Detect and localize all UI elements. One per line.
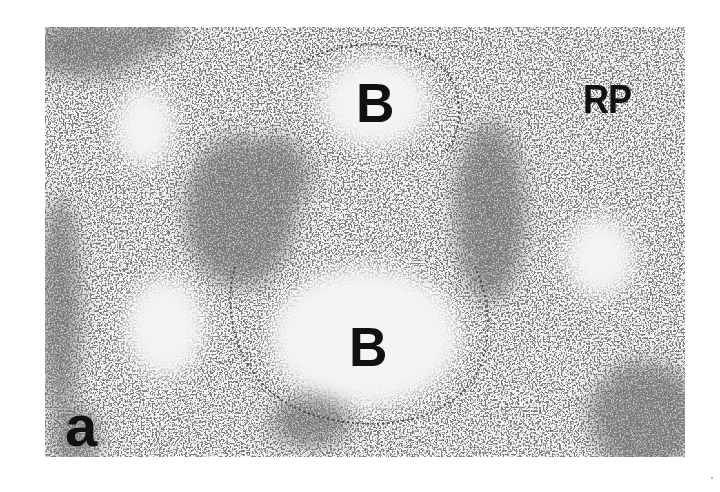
micrograph-image: B RP B a [45,27,685,457]
panel-label: a [65,397,96,455]
follicle-label-bottom: B [349,319,386,375]
follicle-label-top: B [356,75,393,131]
page-speck [711,477,713,479]
red-pulp-label: RP [583,79,631,119]
